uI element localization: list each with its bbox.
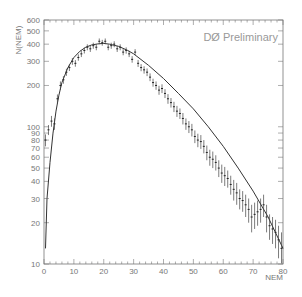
x-tick-label: 50 xyxy=(189,267,198,276)
y-axis-title: N(NEM) xyxy=(14,25,23,54)
x-tick-label: 70 xyxy=(249,267,258,276)
chart-title: DØ Preliminary xyxy=(203,31,278,43)
x-tick-label: 0 xyxy=(42,267,47,276)
y-tick-label: 20 xyxy=(31,219,40,228)
y-tick-label: 100 xyxy=(27,123,41,132)
x-tick-label: 10 xyxy=(69,267,78,276)
y-tick-label: 30 xyxy=(31,195,40,204)
y-tick-label: 400 xyxy=(27,40,41,49)
x-tick-label: 30 xyxy=(129,267,138,276)
y-tick-label: 200 xyxy=(27,81,41,90)
x-tick-label: 40 xyxy=(159,267,168,276)
y-tick-label: 40 xyxy=(31,177,40,186)
axis-ticks: 0102030405060708010203040506070809010020… xyxy=(27,16,288,276)
data-points xyxy=(44,38,282,263)
y-tick-label: 60 xyxy=(31,153,40,162)
fit-curve xyxy=(46,43,284,248)
x-tick-label: 60 xyxy=(219,267,228,276)
x-axis-title: NEM xyxy=(265,273,283,282)
x-tick-label: 20 xyxy=(99,267,108,276)
plot-frame xyxy=(44,20,283,264)
chart: 0102030405060708010203040506070809010020… xyxy=(0,0,302,297)
y-tick-label: 70 xyxy=(31,144,40,153)
y-tick-label: 50 xyxy=(31,164,40,173)
y-tick-label: 10 xyxy=(31,260,40,269)
y-tick-label: 600 xyxy=(27,16,41,25)
y-tick-label: 500 xyxy=(27,27,41,36)
y-tick-label: 300 xyxy=(27,57,41,66)
